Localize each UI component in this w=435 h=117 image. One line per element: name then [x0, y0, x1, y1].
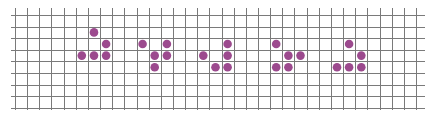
live-cell-dot [90, 28, 99, 37]
generation-4 [272, 40, 305, 72]
live-cell-dot [272, 40, 281, 49]
live-cell-dot [345, 63, 354, 72]
live-cell-dot [357, 51, 366, 60]
live-cell-dot [78, 51, 87, 60]
live-cell-dot [150, 63, 159, 72]
live-cell-dot [102, 51, 111, 60]
live-cell-dot [272, 63, 281, 72]
grid-canvas [0, 0, 435, 117]
live-cell-dot [150, 51, 159, 60]
generation-3 [199, 40, 232, 72]
live-cell-dot [102, 40, 111, 49]
live-cell-dot [163, 51, 172, 60]
glider-cells [78, 28, 366, 71]
generation-5 [333, 40, 366, 72]
live-cell-dot [90, 51, 99, 60]
live-cell-dot [223, 40, 232, 49]
live-cell-dot [284, 51, 293, 60]
live-cell-dot [199, 51, 208, 60]
live-cell-dot [223, 51, 232, 60]
live-cell-dot [138, 40, 147, 49]
live-cell-dot [163, 40, 172, 49]
live-cell-dot [345, 40, 354, 49]
live-cell-dot [223, 63, 232, 72]
live-cell-dot [333, 63, 342, 72]
live-cell-dot [296, 51, 305, 60]
live-cell-dot [284, 63, 293, 72]
live-cell-dot [211, 63, 220, 72]
glider-diagram [0, 0, 435, 117]
live-cell-dot [357, 63, 366, 72]
generation-1 [78, 28, 111, 60]
generation-2 [138, 40, 171, 72]
